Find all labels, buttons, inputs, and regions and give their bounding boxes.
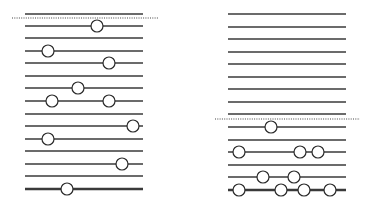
circle-marker <box>233 146 245 158</box>
circle-marker <box>61 183 73 195</box>
left-panel <box>12 14 158 195</box>
circle-marker <box>42 45 54 57</box>
circle-marker <box>324 184 336 196</box>
circle-marker <box>127 120 139 132</box>
diagram-svg <box>0 0 374 209</box>
circle-marker <box>275 184 287 196</box>
circle-marker <box>46 95 58 107</box>
circle-marker <box>257 171 269 183</box>
right-panel <box>215 14 360 196</box>
circle-marker <box>103 57 115 69</box>
circle-marker <box>91 20 103 32</box>
circle-marker <box>72 82 84 94</box>
circle-marker <box>298 184 310 196</box>
circle-marker <box>294 146 306 158</box>
circle-marker <box>42 133 54 145</box>
circle-marker <box>116 158 128 170</box>
circle-marker <box>288 171 300 183</box>
circle-marker <box>265 121 277 133</box>
circle-marker <box>103 95 115 107</box>
circle-marker <box>233 184 245 196</box>
diagram-canvas <box>0 0 374 209</box>
circle-marker <box>312 146 324 158</box>
